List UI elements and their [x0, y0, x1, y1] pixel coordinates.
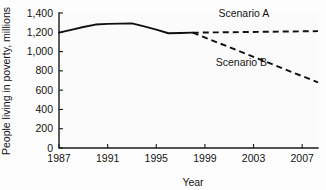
x-tick-label: 1991 — [96, 152, 120, 164]
x-tick-label: 1995 — [145, 152, 169, 164]
x-axis-tick-labels: 198719911995199920032007 — [47, 152, 314, 164]
x-axis-title: Year — [182, 176, 204, 188]
poverty-projection-chart: 02004006008001,0001,2001,400 19871991199… — [0, 0, 326, 190]
x-tick-label: 2007 — [291, 152, 315, 164]
y-axis-tick-labels: 02004006008001,0001,2001,400 — [27, 7, 53, 154]
y-tick-label: 1,000 — [27, 45, 53, 57]
y-axis-title: People living in poverty, millions — [0, 7, 12, 155]
x-tick-label: 2003 — [242, 152, 266, 164]
x-tick-label: 1999 — [193, 152, 217, 164]
annotation-scenario-b: Scenario B — [216, 56, 267, 68]
annotation-scenario-a: Scenario A — [218, 7, 269, 19]
chart-canvas: 02004006008001,0001,2001,400 19871991199… — [0, 0, 326, 190]
y-tick-label: 1,400 — [27, 7, 53, 19]
y-tick-label: 1,200 — [27, 26, 53, 38]
x-tick-label: 1987 — [47, 152, 71, 164]
y-tick-label: 600 — [35, 84, 53, 96]
y-tick-label: 400 — [35, 103, 53, 115]
y-tick-label: 800 — [35, 64, 53, 76]
y-tick-label: 200 — [35, 122, 53, 134]
